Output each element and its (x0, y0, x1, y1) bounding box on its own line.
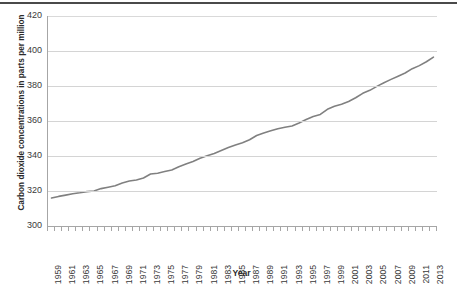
gridline (48, 16, 437, 17)
y-tick-label: 300 (16, 221, 42, 230)
x-tick-label: 2013 (436, 265, 445, 284)
gridline (48, 86, 437, 87)
x-tick-mark (436, 227, 437, 231)
gridline (48, 121, 437, 122)
y-tick-label: 340 (16, 151, 42, 160)
y-tick-label: 320 (16, 186, 42, 195)
x-axis-tick-labels: 1959196119631965196719691971197319751977… (47, 231, 436, 267)
y-tick-label: 420 (16, 11, 42, 20)
plot-area (47, 16, 437, 227)
gridline (48, 156, 437, 157)
gridline (48, 51, 437, 52)
y-tick-label: 380 (16, 81, 42, 90)
top-divider-rule (0, 2, 457, 4)
y-tick-label: 400 (16, 46, 42, 55)
gridline (48, 191, 437, 192)
y-tick-label: 360 (16, 116, 42, 125)
y-axis-tick-labels: 300320340360380400420 (16, 10, 42, 232)
x-axis-title: Year (47, 268, 436, 278)
